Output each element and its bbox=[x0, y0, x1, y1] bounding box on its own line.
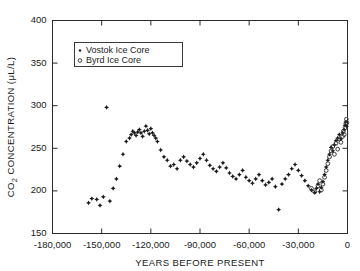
y-tick-label: 350 bbox=[31, 57, 47, 68]
x-tick-label: -30,000 bbox=[282, 239, 314, 250]
x-tick-label: -120,000 bbox=[132, 239, 170, 250]
legend-marker-vostok bbox=[79, 49, 81, 51]
y-tick-label: 400 bbox=[31, 14, 47, 25]
co2-ice-core-chart: 150200250300350400 -180,000-150,000-120,… bbox=[0, 0, 360, 271]
x-tick-label: 0 bbox=[345, 239, 350, 250]
chart-background bbox=[0, 0, 360, 271]
x-axis-title: YEARS BEFORE PRESENT bbox=[135, 257, 264, 268]
legend-label: Vostok Ice Core bbox=[86, 45, 150, 55]
x-tick-label: -60,000 bbox=[233, 239, 265, 250]
y-tick-label: 200 bbox=[31, 184, 47, 195]
chart-svg: 150200250300350400 -180,000-150,000-120,… bbox=[0, 0, 360, 271]
x-tick-label: -90,000 bbox=[184, 239, 216, 250]
x-tick-label: -180,000 bbox=[34, 239, 72, 250]
legend-label: Byrd Ice Core bbox=[86, 55, 141, 65]
x-tick-label: -150,000 bbox=[83, 239, 121, 250]
y-tick-label: 250 bbox=[31, 142, 47, 153]
y-tick-label: 150 bbox=[31, 227, 47, 238]
chart-legend: Vostok Ice CoreByrd Ice Core bbox=[75, 43, 183, 67]
y-tick-label: 300 bbox=[31, 99, 47, 110]
legend-entries: Vostok Ice CoreByrd Ice Core bbox=[78, 45, 149, 65]
